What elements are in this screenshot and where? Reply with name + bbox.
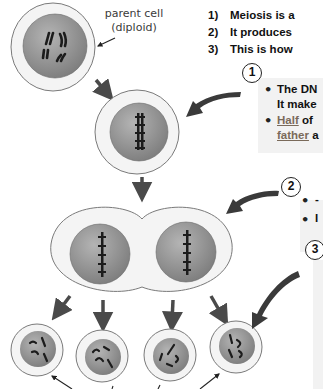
intro-list: 1) Meiosis is a 2) It produces 3) This i…	[208, 7, 323, 58]
underlined-father: father	[277, 129, 309, 141]
replicated-cell	[95, 90, 179, 174]
parent-cell	[11, 3, 95, 91]
parent-cell-label-line1: parent cell	[94, 7, 174, 21]
step-1-bullet-1-line-1: The DN	[277, 82, 317, 97]
intro-item: 2) It produces	[208, 24, 323, 41]
arrow-down	[96, 80, 107, 93]
parent-cell-label-line2: (diploid)	[94, 21, 174, 35]
intro-item-text: This is how	[230, 41, 293, 58]
parent-cell-label: parent cell (diploid)	[94, 7, 174, 35]
intro-item-number: 2)	[208, 24, 230, 41]
step-3-panel	[313, 260, 323, 389]
step-3-badge: 3	[305, 240, 323, 260]
bullet-icon: •	[264, 114, 272, 128]
gamete-cell	[210, 321, 262, 373]
bullet-icon: •	[301, 194, 309, 208]
gamete-cell	[76, 330, 128, 382]
step-1-badge: 1	[242, 63, 262, 83]
intro-item-text: It produces	[230, 24, 292, 41]
underlined-half: Half	[277, 114, 299, 126]
gamete-label-arrows	[52, 374, 219, 389]
intro-item-number: 1)	[208, 7, 230, 24]
step-2-bullet-2-text: I	[315, 211, 318, 226]
step-2-bullet-1-text: -	[315, 192, 319, 207]
step-1-bullet-2-line-2: father a	[277, 128, 319, 143]
intro-item: 1) Meiosis is a	[208, 7, 323, 24]
step-2-badge: 2	[281, 177, 301, 197]
gamete-cell	[11, 324, 63, 376]
dividing-cell	[51, 207, 232, 291]
step-1-arrow	[186, 92, 241, 117]
intro-item-number: 3)	[208, 41, 230, 58]
step-1-bullet-1-line-2: It make	[277, 97, 317, 112]
label-arrow	[98, 38, 115, 46]
bullet-icon: •	[264, 83, 272, 97]
step-1-bullet-2-line-1: Half of	[277, 113, 313, 128]
text: of	[299, 114, 313, 126]
text: a	[309, 129, 319, 141]
step-3-arrow	[252, 271, 300, 329]
bullet-icon: •	[301, 213, 309, 227]
division-arrows	[58, 296, 223, 322]
meiosis-diagram	[0, 0, 323, 389]
intro-item-text: Meiosis is a	[230, 7, 295, 24]
step-2-arrow	[226, 191, 279, 214]
intro-item: 3) This is how	[208, 41, 323, 58]
gamete-cell	[144, 329, 196, 381]
